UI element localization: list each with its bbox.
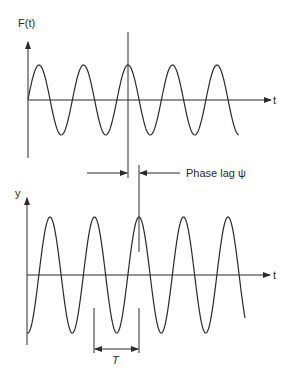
bottom-x-axis-label: t	[273, 270, 276, 281]
top-x-axis-label: t	[273, 95, 276, 106]
top-plot	[28, 42, 271, 158]
bottom-y-axis-label: y	[15, 188, 21, 199]
diagram-canvas	[0, 0, 293, 377]
period-bracket	[94, 308, 139, 353]
period-label: T	[112, 355, 119, 366]
top-y-axis-label: F(t)	[18, 18, 35, 29]
phase-lag-label: Phase lag ψ	[186, 168, 246, 179]
bottom-plot	[27, 198, 270, 345]
